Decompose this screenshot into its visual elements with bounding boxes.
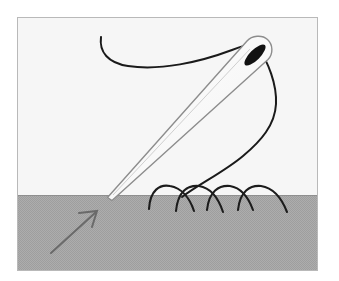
illustration-canvas: Hand sewing a running stitch with thread… [0,0,339,281]
sewing-illustration [0,0,339,281]
fabric-surface [17,195,318,271]
